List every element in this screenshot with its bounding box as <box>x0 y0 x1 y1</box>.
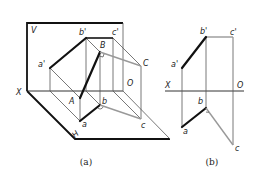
caption-b: (b) <box>206 157 219 167</box>
line-a-prime-b-prime-b <box>182 37 206 68</box>
line-BC <box>100 52 141 66</box>
v-plane-frame <box>27 23 123 91</box>
projector-b-prime-B <box>86 38 100 52</box>
projection-diagram: V X O a' b' c' A B C a b c H (a) X O a' <box>0 0 254 184</box>
h-plane-frame <box>27 91 170 139</box>
line-bc <box>100 105 141 119</box>
label-b-b: b <box>198 97 203 106</box>
line-ab-b <box>182 108 206 127</box>
label-A: A <box>68 97 74 106</box>
line-a-prime-b-prime <box>50 38 86 68</box>
label-O-a: O <box>127 79 133 88</box>
label-c-prime-a: c' <box>112 28 119 37</box>
line-bc-b <box>206 108 233 145</box>
figure-b: X O a' b' c' b a c (b) <box>164 27 244 167</box>
label-b-prime-a: b' <box>79 28 86 37</box>
figure-a: V X O a' b' c' A B C a b c H (a) <box>15 23 170 167</box>
caption-a: (a) <box>80 157 92 167</box>
label-B: B <box>100 41 106 50</box>
label-c-a: c <box>141 121 146 130</box>
label-C: C <box>143 59 149 68</box>
line-ab <box>80 105 100 121</box>
label-c-b: c <box>235 144 240 153</box>
projector-a-prime-A <box>50 68 80 98</box>
label-X-b: X <box>164 81 171 90</box>
projector-b-h <box>86 91 100 105</box>
label-X-a: X <box>15 88 22 97</box>
label-a-prime-b: a' <box>171 60 178 69</box>
label-b-prime-b: b' <box>200 27 207 36</box>
label-a-b: a <box>183 127 188 136</box>
label-O-b: O <box>237 81 243 90</box>
label-b-a: b <box>102 97 107 106</box>
label-a-a: a <box>82 120 87 129</box>
label-V: V <box>31 26 37 35</box>
label-c-prime-b: c' <box>230 28 237 37</box>
label-a-prime-a: a' <box>38 60 45 69</box>
projector-a-h <box>50 91 80 121</box>
